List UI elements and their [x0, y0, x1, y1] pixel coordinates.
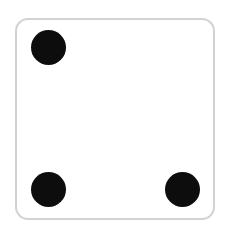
pip-bottom-right: [165, 172, 200, 207]
pip-top-left: [31, 30, 66, 65]
die-face[interactable]: [15, 18, 215, 220]
die-scene: [0, 0, 231, 234]
pip-bottom-left: [31, 172, 66, 207]
